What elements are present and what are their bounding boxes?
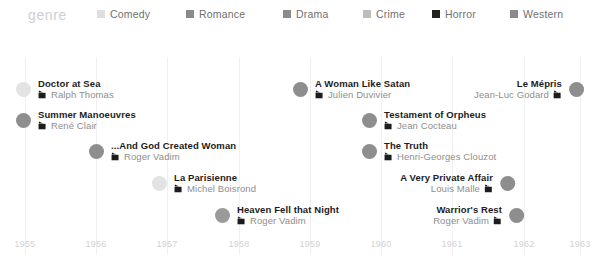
legend-item-crime[interactable]: Crime (363, 8, 405, 20)
legend-item-label: Western (523, 8, 563, 20)
clapperboard-icon (111, 152, 120, 161)
event-director-row: Ralph Thomas (38, 89, 114, 100)
event-title: Le Mépris (517, 78, 562, 89)
clapperboard-icon (38, 121, 47, 130)
event-title: Doctor at Sea (38, 78, 114, 89)
event-text: Warrior's RestRoger Vadim (433, 204, 509, 226)
event-title: A Very Private Affair (400, 172, 493, 183)
timeline-event[interactable]: Summer ManoeuvresRené Clair (16, 109, 136, 131)
event-director: Roger Vadim (124, 151, 180, 162)
event-title: The Truth (384, 140, 496, 151)
legend-item-label: Drama (296, 8, 329, 20)
event-dot[interactable] (569, 82, 584, 97)
timeline-event[interactable]: A Very Private AffairLouis Malle (400, 172, 515, 194)
axis-tick-label: 1961 (441, 239, 462, 249)
timeline-event[interactable]: Heaven Fell that NightRoger Vadim (215, 204, 339, 226)
axis-tick-label: 1960 (370, 239, 391, 249)
event-text: Testament of OrpheusJean Cocteau (377, 109, 486, 131)
event-director: Henri-Georges Clouzot (397, 151, 496, 162)
axis-tick-label: 1958 (228, 239, 249, 249)
event-title: Testament of Orpheus (384, 109, 486, 120)
event-director: Louis Malle (431, 183, 480, 194)
clapperboard-icon (315, 90, 324, 99)
event-director: Jean Cocteau (397, 120, 457, 131)
event-title: La Parisienne (174, 172, 256, 183)
event-director: Roger Vadim (433, 215, 489, 226)
clapperboard-icon (38, 90, 47, 99)
event-text: Doctor at SeaRalph Thomas (31, 78, 114, 100)
event-director: Ralph Thomas (51, 89, 114, 100)
timeline-event[interactable]: Warrior's RestRoger Vadim (433, 204, 524, 226)
event-title: Heaven Fell that Night (237, 204, 339, 215)
event-dot[interactable] (16, 82, 31, 97)
clapperboard-icon (384, 152, 393, 161)
event-director-row: Jean-Luc Godard (474, 89, 562, 100)
event-dot[interactable] (362, 144, 377, 159)
event-director: René Clair (51, 120, 97, 131)
axis-tick-label: 1957 (156, 239, 177, 249)
legend-item-label: Crime (376, 8, 405, 20)
event-director: Jean-Luc Godard (474, 89, 549, 100)
event-text: Summer ManoeuvresRené Clair (31, 109, 136, 131)
event-text: A Very Private AffairLouis Malle (400, 172, 500, 194)
event-dot[interactable] (362, 113, 377, 128)
legend-swatch-icon (363, 10, 371, 18)
legend-swatch-icon (510, 10, 518, 18)
legend-swatch-icon (432, 10, 440, 18)
event-title: A Woman Like Satan (315, 78, 410, 89)
axis-tick-label: 1962 (513, 239, 534, 249)
genre-legend: genre ComedyRomanceDramaCrimeHorrorWeste… (0, 0, 599, 32)
timeline-event[interactable]: Le MéprisJean-Luc Godard (474, 78, 584, 100)
event-director-row: Louis Malle (431, 183, 493, 194)
event-dot[interactable] (215, 208, 230, 223)
event-director-row: Henri-Georges Clouzot (384, 151, 496, 162)
timeline-event[interactable]: Doctor at SeaRalph Thomas (16, 78, 114, 100)
timeline-event[interactable]: Testament of OrpheusJean Cocteau (362, 109, 486, 131)
clapperboard-icon (384, 121, 393, 130)
event-text: Heaven Fell that NightRoger Vadim (230, 204, 339, 226)
event-director-row: Roger Vadim (433, 215, 502, 226)
event-director-row: Roger Vadim (237, 215, 339, 226)
event-director-row: Roger Vadim (111, 151, 236, 162)
event-dot[interactable] (16, 113, 31, 128)
event-dot[interactable] (152, 176, 167, 191)
event-dot[interactable] (293, 82, 308, 97)
event-text: La ParisienneMichel Boisrond (167, 172, 256, 194)
legend-item-drama[interactable]: Drama (283, 8, 329, 20)
legend-item-comedy[interactable]: Comedy (97, 8, 150, 20)
legend-item-horror[interactable]: Horror (432, 8, 476, 20)
event-director: Julien Duvivier (328, 89, 391, 100)
axis-tick-label: 1956 (85, 239, 106, 249)
event-dot[interactable] (500, 176, 515, 191)
legend-swatch-icon (97, 10, 105, 18)
timeline-event[interactable]: A Woman Like SatanJulien Duvivier (293, 78, 410, 100)
legend-swatch-icon (283, 10, 291, 18)
timeline-plot: 195519561957195819591960196119621963 Doc… (0, 32, 599, 268)
clapperboard-icon (174, 184, 183, 193)
event-text: A Woman Like SatanJulien Duvivier (308, 78, 410, 100)
event-title: Summer Manoeuvres (38, 109, 136, 120)
timeline-event[interactable]: La ParisienneMichel Boisrond (152, 172, 256, 194)
axis-tick-label: 1955 (14, 239, 35, 249)
clapperboard-icon (484, 184, 493, 193)
event-dot[interactable] (89, 144, 104, 159)
legend-item-label: Horror (445, 8, 476, 20)
timeline-event[interactable]: The TruthHenri-Georges Clouzot (362, 140, 496, 162)
event-dot[interactable] (509, 208, 524, 223)
legend-title: genre (28, 7, 67, 23)
event-director-row: Julien Duvivier (315, 89, 410, 100)
event-director: Michel Boisrond (187, 183, 256, 194)
event-director-row: Michel Boisrond (174, 183, 256, 194)
event-director-row: Jean Cocteau (384, 120, 486, 131)
legend-item-label: Romance (199, 8, 245, 20)
clapperboard-icon (237, 216, 246, 225)
legend-swatch-icon (186, 10, 194, 18)
timeline-event[interactable]: ...And God Created WomanRoger Vadim (89, 140, 236, 162)
event-title: ...And God Created Woman (111, 140, 236, 151)
legend-item-romance[interactable]: Romance (186, 8, 245, 20)
legend-item-label: Comedy (110, 8, 150, 20)
event-title: Warrior's Rest (436, 204, 502, 215)
clapperboard-icon (553, 90, 562, 99)
legend-item-western[interactable]: Western (510, 8, 563, 20)
event-director-row: René Clair (38, 120, 136, 131)
